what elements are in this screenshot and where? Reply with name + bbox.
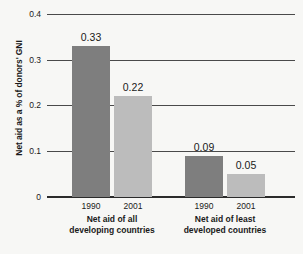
bar-group2-1990 bbox=[185, 156, 223, 197]
y-axis-title: Net aid as a % of donors' GNI bbox=[12, 0, 26, 198]
bar-value-group1-1990: 0.33 bbox=[72, 31, 110, 43]
gridline-0.4 bbox=[47, 14, 295, 15]
y-tick-label-0: 0.4 bbox=[21, 10, 41, 19]
bar-group1-1990 bbox=[72, 46, 110, 197]
group-caption-developing-line2: developing countries bbox=[52, 225, 172, 236]
group-caption-developing: Net aid of all developing countries bbox=[52, 214, 172, 236]
group-caption-developing-line1: Net aid of all bbox=[52, 214, 172, 225]
bar-value-group2-2001: 0.05 bbox=[227, 159, 265, 171]
y-tick-label-3: 0.1 bbox=[21, 147, 41, 156]
group-caption-least-developed: Net aid of least developed countries bbox=[165, 214, 285, 236]
group-caption-least-developed-line1: Net aid of least bbox=[165, 214, 285, 225]
y-tick-label-2: 0.2 bbox=[21, 101, 41, 110]
bar-value-group1-2001: 0.22 bbox=[114, 81, 152, 93]
x-tick-label-group2-2001: 2001 bbox=[227, 201, 265, 211]
group-caption-least-developed-line2: developed countries bbox=[165, 225, 285, 236]
x-tick-label-group1-2001: 2001 bbox=[114, 201, 152, 211]
bar-chart: Net aid as a % of donors' GNI 0.4 0.3 0.… bbox=[0, 0, 303, 254]
bar-group2-2001 bbox=[227, 174, 265, 197]
x-tick-label-group1-1990: 1990 bbox=[72, 201, 110, 211]
y-tick-label-4: 0 bbox=[21, 193, 41, 202]
plot-area: 0.33 0.22 0.09 0.05 bbox=[47, 14, 295, 197]
bar-group1-2001 bbox=[114, 96, 152, 197]
x-tick-label-group2-1990: 1990 bbox=[185, 201, 223, 211]
y-tick-label-1: 0.3 bbox=[21, 56, 41, 65]
bar-value-group2-1990: 0.09 bbox=[185, 141, 223, 153]
